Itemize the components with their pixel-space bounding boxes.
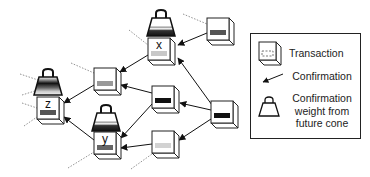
legend: Transaction Confirmation Confirmation we… — [250, 33, 361, 139]
transaction-center-dark — [152, 86, 179, 113]
svg-text:x: x — [156, 38, 162, 52]
legend-weight-line3: future cone — [284, 117, 360, 130]
transaction-icon — [258, 41, 284, 67]
transaction-mid-upper-left — [94, 68, 121, 95]
weight-icon — [92, 105, 120, 131]
legend-transaction-label: Transaction — [289, 47, 357, 60]
transaction-top-right — [207, 18, 234, 45]
svg-text:z: z — [45, 97, 51, 111]
transaction-y: y — [94, 132, 121, 159]
confirmation-arrow-icon — [260, 71, 286, 85]
legend-weight-line2: weight from — [284, 105, 360, 118]
confirmation-arrows — [64, 33, 212, 148]
transaction-bottom-light — [152, 131, 179, 158]
weight-icon — [147, 10, 175, 36]
weight-icon — [258, 96, 280, 118]
transaction-right-dark — [211, 101, 238, 128]
transaction-x: x — [148, 38, 175, 65]
legend-weight-label: Confirmation weight from future cone — [284, 92, 360, 130]
weight-icon — [34, 69, 62, 95]
transaction-z: z — [37, 97, 64, 124]
svg-text:y: y — [102, 132, 108, 146]
legend-weight-line1: Confirmation — [284, 92, 360, 105]
legend-confirmation-label: Confirmation — [284, 70, 360, 83]
